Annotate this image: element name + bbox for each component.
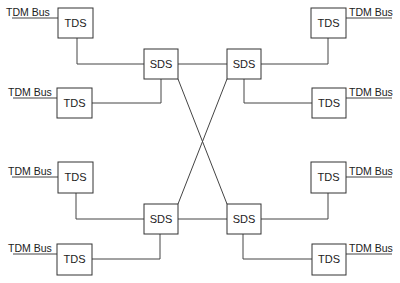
node-label: SDS — [150, 213, 173, 225]
link-sds-tr-to-tds-mr — [244, 79, 312, 103]
link-sds-br-to-tds-br — [243, 234, 312, 259]
connections — [12, 18, 392, 259]
node-label: TDS — [318, 253, 340, 265]
tds-node-top-right: TDS TDM Bus — [311, 6, 393, 38]
tdm-bus-label: TDM Bus — [349, 6, 393, 18]
switch-network-diagram: TDS TDM Bus TDS TDM Bus TDS TDM Bus TDS … — [0, 0, 400, 283]
link-tds-lt-to-sds-bl — [76, 193, 144, 219]
tdm-bus-label: TDM Bus — [349, 86, 393, 98]
tdm-bus-label: TDM Bus — [8, 165, 52, 177]
node-label: TDS — [318, 171, 340, 183]
tds-node-top-left: TDS TDM Bus — [6, 6, 93, 38]
sds-node-top-left: SDS — [144, 49, 178, 79]
tds-node-bottom-left: TDS TDM Bus — [8, 242, 92, 275]
link-tds-bl-to-sds-bl — [92, 234, 160, 259]
sds-node-bottom-left: SDS — [144, 204, 178, 234]
node-label: TDS — [318, 17, 340, 29]
tdm-bus-label: TDM Bus — [349, 242, 393, 254]
node-label: TDS — [65, 17, 87, 29]
link-sds-tr-to-tds-tr — [261, 38, 328, 64]
tdm-bus-label: TDM Bus — [6, 6, 50, 18]
sds-node-bottom-right: SDS — [227, 204, 261, 234]
link-tds-ml-to-sds-tl — [92, 79, 161, 103]
tds-node-bottom-right: TDS TDM Bus — [312, 242, 393, 275]
tds-node-mid-left: TDS TDM Bus — [8, 86, 92, 118]
node-label: SDS — [150, 58, 173, 70]
node-label: TDS — [65, 171, 87, 183]
tdm-bus-label: TDM Bus — [349, 165, 393, 177]
node-label: SDS — [233, 58, 256, 70]
node-label: SDS — [233, 213, 256, 225]
tdm-bus-label: TDM Bus — [8, 242, 52, 254]
link-sds-br-to-tds-rt — [261, 193, 328, 219]
tds-node-mid-right: TDS TDM Bus — [312, 86, 393, 118]
link-tds-tl-to-sds-tl — [77, 38, 144, 64]
node-label: TDS — [64, 253, 86, 265]
sds-node-top-right: SDS — [227, 49, 261, 79]
node-label: TDS — [318, 97, 340, 109]
node-label: TDS — [64, 97, 86, 109]
tdm-bus-label: TDM Bus — [8, 86, 52, 98]
